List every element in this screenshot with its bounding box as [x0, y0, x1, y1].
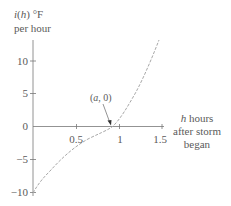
y-tick-5: 5: [4, 88, 28, 99]
x-axis-label-line3: began: [168, 138, 226, 150]
y-axis-label-line2: per hour: [14, 23, 51, 34]
y-tick-0: 0: [4, 121, 28, 132]
annotation-label: (a, 0): [90, 93, 112, 103]
y-tick-neg5: −5: [4, 154, 28, 165]
y-tick-10: 10: [4, 56, 28, 67]
y-tick-neg10: −10: [4, 187, 28, 198]
x-tick-1: 1: [108, 134, 132, 145]
arrowhead-icon: [108, 120, 112, 126]
x-tick-0.5: 0.5: [64, 134, 88, 145]
x-axis-label-line2: after storm: [168, 125, 226, 137]
curve-i-of-h: [33, 40, 159, 193]
annotation-arrow: [103, 104, 110, 123]
y-axis-label-line1: i(h) °F: [14, 9, 43, 20]
x-axis-label-line1: h hours: [168, 112, 226, 124]
